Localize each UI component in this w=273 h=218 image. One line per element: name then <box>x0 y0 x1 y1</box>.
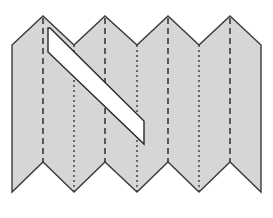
folded-strip-diagram <box>0 0 273 218</box>
